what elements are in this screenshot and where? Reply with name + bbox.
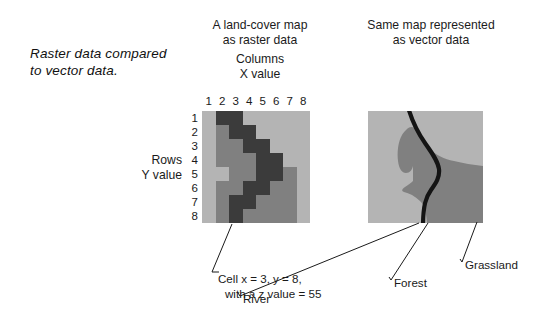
- label-river: River: [243, 292, 270, 305]
- raster-cell: [243, 153, 257, 167]
- raster-cell: [243, 167, 257, 181]
- raster-cell: [270, 125, 284, 139]
- raster-cell: [256, 209, 270, 223]
- label-forest: Forest: [394, 276, 427, 289]
- raster-cell: [297, 195, 311, 209]
- raster-cell: [297, 111, 311, 125]
- vector-title-line1: Same map represented: [336, 18, 526, 33]
- raster-cell: [270, 153, 284, 167]
- row-label: 6: [184, 181, 198, 195]
- raster-cell: [229, 181, 243, 195]
- raster-cell: [270, 209, 284, 223]
- row-label: 7: [184, 195, 198, 209]
- raster-cell: [229, 125, 243, 139]
- raster-cell: [202, 209, 216, 223]
- raster-cell: [202, 153, 216, 167]
- raster-cell: [243, 111, 257, 125]
- row-label: 1: [184, 111, 198, 125]
- raster-panel-title: A land-cover map as raster data: [180, 18, 340, 47]
- cell-callout-line1: Cell x = 3, y = 8,: [218, 272, 302, 285]
- column-label: 1: [202, 94, 216, 108]
- raster-cell: [229, 153, 243, 167]
- raster-cell: [283, 181, 297, 195]
- raster-cell: [283, 195, 297, 209]
- row-label: 2: [184, 125, 198, 139]
- raster-cell: [283, 167, 297, 181]
- y-axis-line1: Rows: [130, 153, 182, 168]
- column-label: 8: [297, 94, 311, 108]
- raster-cell: [243, 139, 257, 153]
- forest-leader-line: [389, 223, 428, 280]
- raster-cell: [202, 111, 216, 125]
- raster-column-labels: 1 2 3 4 5 6 7 8: [202, 94, 310, 108]
- raster-cell: [216, 181, 230, 195]
- raster-cell: [256, 139, 270, 153]
- column-label: 5: [256, 94, 270, 108]
- raster-cell: [297, 139, 311, 153]
- raster-title-line2: as raster data: [180, 33, 340, 48]
- raster-cell: [202, 139, 216, 153]
- x-axis-line2: X value: [180, 67, 340, 82]
- raster-cell: [297, 125, 311, 139]
- vector-map: [368, 111, 483, 223]
- row-label: 5: [184, 167, 198, 181]
- raster-cell: [202, 167, 216, 181]
- raster-grid: [202, 111, 310, 223]
- raster-row-labels: 1 2 3 4 5 6 7 8: [184, 111, 198, 223]
- cell-leader-line: [212, 224, 232, 272]
- raster-cell: [243, 209, 257, 223]
- raster-cell: [270, 167, 284, 181]
- raster-cell: [216, 167, 230, 181]
- column-label: 2: [216, 94, 230, 108]
- raster-cell: [297, 181, 311, 195]
- column-label: 6: [270, 94, 284, 108]
- raster-title-line1: A land-cover map: [180, 18, 340, 33]
- raster-cell: [202, 125, 216, 139]
- raster-cell: [216, 139, 230, 153]
- row-label: 3: [184, 139, 198, 153]
- raster-cell: [297, 209, 311, 223]
- raster-cell: [216, 125, 230, 139]
- raster-cell: [270, 181, 284, 195]
- raster-cell: [283, 139, 297, 153]
- raster-cell: [229, 209, 243, 223]
- vector-panel-title: Same map represented as vector data: [336, 18, 526, 47]
- grassland-leader-line: [460, 222, 477, 262]
- raster-x-axis-title: Columns X value: [180, 52, 340, 81]
- raster-cell: [229, 111, 243, 125]
- raster-cell: [283, 209, 297, 223]
- raster-cell: [256, 125, 270, 139]
- raster-cell: [216, 153, 230, 167]
- raster-cell: [216, 195, 230, 209]
- raster-cell: [202, 195, 216, 209]
- raster-cell: [243, 195, 257, 209]
- raster-cell: [216, 111, 230, 125]
- raster-cell: [256, 111, 270, 125]
- raster-cell: [256, 153, 270, 167]
- raster-cell: [229, 167, 243, 181]
- raster-cell: [283, 125, 297, 139]
- column-label: 3: [229, 94, 243, 108]
- raster-cell: [243, 181, 257, 195]
- raster-cell: [283, 153, 297, 167]
- row-label: 8: [184, 209, 198, 223]
- vector-title-line2: as vector data: [336, 33, 526, 48]
- column-label: 7: [283, 94, 297, 108]
- raster-cell: [256, 195, 270, 209]
- raster-cell: [243, 125, 257, 139]
- raster-cell: [283, 111, 297, 125]
- raster-cell: [270, 139, 284, 153]
- raster-cell: [229, 139, 243, 153]
- raster-cell: [270, 111, 284, 125]
- label-grassland: Grassland: [465, 258, 518, 271]
- raster-cell: [256, 181, 270, 195]
- y-axis-line2: Y value: [130, 168, 182, 183]
- column-label: 4: [243, 94, 257, 108]
- x-axis-line1: Columns: [180, 52, 340, 67]
- raster-cell: [202, 181, 216, 195]
- raster-cell: [270, 195, 284, 209]
- raster-y-axis-title: Rows Y value: [130, 153, 182, 182]
- raster-cell: [256, 167, 270, 181]
- row-label: 4: [184, 153, 198, 167]
- raster-cell: [297, 153, 311, 167]
